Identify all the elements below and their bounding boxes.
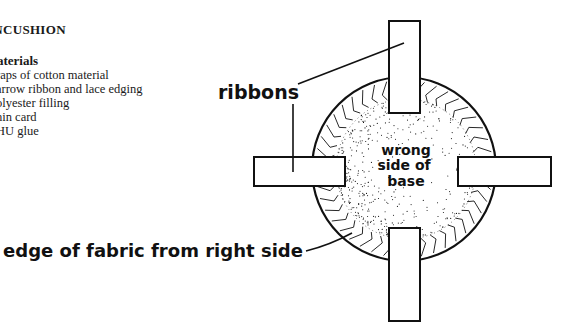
stipple-dot xyxy=(362,195,363,196)
stipple-dot xyxy=(391,137,392,138)
stipple-dot xyxy=(362,209,363,210)
stipple-dot xyxy=(357,175,358,176)
stipple-dot xyxy=(458,213,459,214)
stipple-dot xyxy=(346,181,347,182)
stipple-dot xyxy=(431,182,432,183)
stipple-dot xyxy=(364,120,365,121)
stipple-dot xyxy=(358,213,359,214)
stipple-dot xyxy=(349,134,350,135)
stipple-dot xyxy=(366,117,367,118)
stipple-dot xyxy=(363,122,364,123)
stipple-dot xyxy=(359,195,360,196)
stipple-dot xyxy=(352,190,353,191)
stipple-dot xyxy=(431,158,432,159)
stipple-dot xyxy=(361,203,362,204)
stipple-dot xyxy=(469,188,470,189)
stipple-dot xyxy=(454,215,455,216)
ribbons-label: ribbons xyxy=(218,81,299,103)
stipple-dot xyxy=(391,135,392,136)
stipple-dot xyxy=(442,226,443,227)
stipple-dot xyxy=(370,115,371,116)
center-label-line1: wrong xyxy=(381,142,430,158)
stipple-dot xyxy=(364,199,365,200)
stipple-dot xyxy=(444,208,445,209)
stipple-dot xyxy=(419,118,420,119)
stipple-dot xyxy=(467,192,468,193)
stipple-dot xyxy=(397,206,398,207)
stipple-dot xyxy=(353,179,354,180)
stipple-dot xyxy=(438,118,439,119)
stipple-dot xyxy=(456,169,457,170)
stipple-dot xyxy=(408,139,409,140)
stipple-dot xyxy=(358,173,359,174)
stipple-dot xyxy=(348,162,349,163)
stipple-dot xyxy=(378,216,379,217)
stipple-dot xyxy=(352,129,353,130)
stipple-dot xyxy=(357,145,358,146)
stipple-dot xyxy=(359,217,360,218)
stipple-dot xyxy=(367,221,368,222)
stipple-dot xyxy=(411,204,412,205)
stipple-dot xyxy=(443,212,444,213)
stipple-dot xyxy=(450,122,451,123)
stipple-dot xyxy=(423,234,424,235)
stipple-dot xyxy=(352,137,353,138)
stipple-dot xyxy=(348,168,349,169)
left-ribbon xyxy=(254,157,345,186)
stipple-dot xyxy=(385,211,386,212)
stipple-dot xyxy=(415,133,416,134)
stipple-dot xyxy=(381,232,382,233)
stipple-dot xyxy=(358,193,359,194)
stipple-dot xyxy=(431,106,432,107)
stipple-dot xyxy=(352,188,353,189)
stipple-dot xyxy=(437,216,438,217)
stipple-dot xyxy=(375,119,376,120)
stipple-dot xyxy=(385,219,386,220)
stipple-dot xyxy=(339,187,340,188)
center-label-line2: side of xyxy=(377,157,431,173)
stipple-dot xyxy=(358,204,359,205)
stipple-dot xyxy=(342,147,343,148)
stipple-dot xyxy=(361,130,362,131)
stipple-dot xyxy=(386,223,387,224)
stipple-dot xyxy=(445,155,446,156)
stipple-dot xyxy=(407,211,408,212)
stipple-dot xyxy=(367,195,368,196)
stipple-dot xyxy=(350,169,351,170)
stipple-dot xyxy=(414,213,415,214)
stipple-dot xyxy=(373,216,374,217)
stipple-dot xyxy=(342,194,343,195)
stipple-dot xyxy=(381,221,382,222)
stipple-dot xyxy=(351,209,352,210)
stipple-dot xyxy=(373,111,374,112)
stipple-dot xyxy=(443,209,444,210)
stipple-dot xyxy=(371,202,372,203)
stipple-dot xyxy=(373,125,374,126)
stipple-dot xyxy=(442,152,443,153)
stipple-dot xyxy=(373,223,374,224)
stipple-dot xyxy=(387,203,388,204)
stipple-dot xyxy=(393,215,394,216)
stipple-dot xyxy=(422,229,423,230)
stipple-dot xyxy=(378,198,379,199)
stipple-dot xyxy=(426,207,427,208)
stipple-dot xyxy=(467,147,468,148)
stipple-dot xyxy=(452,212,453,213)
stipple-dot xyxy=(432,112,433,113)
stipple-dot xyxy=(359,191,360,192)
stipple-dot xyxy=(401,223,402,224)
stipple-dot xyxy=(348,131,349,132)
stipple-dot xyxy=(344,201,345,202)
stipple-dot xyxy=(391,196,392,197)
stipple-dot xyxy=(379,116,380,117)
stipple-dot xyxy=(360,140,361,141)
stipple-dot xyxy=(377,140,378,141)
stipple-dot xyxy=(361,206,362,207)
stipple-dot xyxy=(350,147,351,148)
stipple-dot xyxy=(358,121,359,122)
stipple-dot xyxy=(455,143,456,144)
stipple-dot xyxy=(353,207,354,208)
stipple-dot xyxy=(384,199,385,200)
stipple-dot xyxy=(377,123,378,124)
stipple-dot xyxy=(380,193,381,194)
